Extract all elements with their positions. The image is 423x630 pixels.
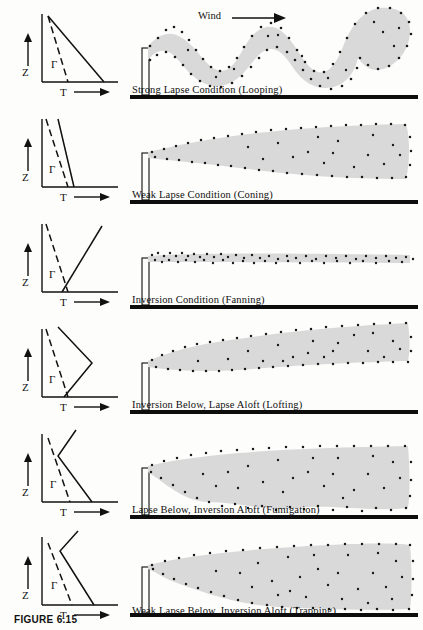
panel-caption: Weak Lapse Condition (Coning)	[132, 189, 423, 200]
thermo-diagram-lofting: Z T Γ	[18, 321, 130, 413]
axis-label-z: Z	[22, 589, 29, 601]
panel-fumigation: Z T Γ	[0, 420, 423, 525]
panel-caption: Lapse Below, Inversion Aloft (Fumigation…	[132, 504, 423, 515]
axis-label-z: Z	[22, 171, 29, 183]
thermo-diagram-looping: Z T Γ	[18, 6, 130, 98]
axis-label-z: Z	[22, 66, 29, 78]
panel-caption: Inversion Below, Lapse Aloft (Lofting)	[132, 399, 423, 410]
gamma-label: Γ	[49, 373, 55, 385]
figure-caption-label: FIGURE 6.15	[14, 614, 77, 625]
thermo-diagram-fanning: Z T Γ	[18, 216, 130, 308]
panel-fanning: Z T Γ	[0, 210, 423, 315]
axis-label-t: T	[60, 191, 67, 203]
panel-lofting: Z T Γ	[0, 315, 423, 420]
axis-label-z: Z	[22, 276, 29, 288]
axis-label-z: Z	[22, 486, 29, 498]
gamma-label: Γ	[51, 58, 57, 70]
thermo-diagram-trapping: Z T Γ	[18, 529, 130, 621]
panel-caption: Inversion Condition (Fanning)	[132, 294, 423, 305]
axis-label-z: Z	[22, 381, 29, 393]
panel-caption: Strong Lapse Condition (Looping)	[132, 84, 423, 95]
axis-label-t: T	[60, 86, 67, 98]
thermo-diagram-fumigation: Z T Γ	[18, 426, 130, 518]
gamma-label: Γ	[50, 478, 56, 490]
axis-label-t: T	[60, 296, 67, 308]
gamma-label: Γ	[51, 579, 57, 591]
gamma-label: Γ	[49, 163, 55, 175]
panel-trapping: Z T Γ	[0, 523, 423, 628]
figure-page: Wind Z T Γ	[0, 0, 423, 630]
thermo-diagram-coning: Z T Γ	[18, 111, 130, 203]
panel-caption: Weak Lapse Below, Inversion Aloft (Trapp…	[132, 605, 423, 616]
axis-label-t: T	[60, 401, 67, 413]
panel-looping: Z T Γ	[0, 0, 423, 105]
axis-label-t: T	[60, 506, 67, 518]
panel-coning: Z T Γ	[0, 105, 423, 210]
gamma-label: Γ	[49, 268, 55, 280]
